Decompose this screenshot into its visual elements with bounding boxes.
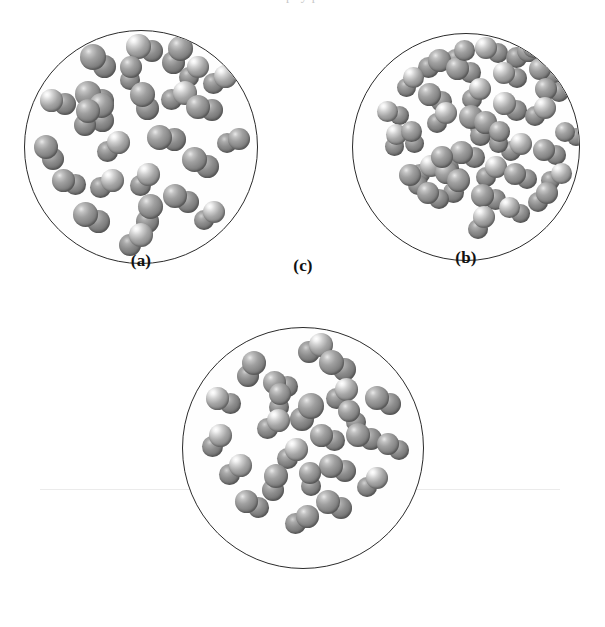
atom-sphere (536, 182, 558, 204)
atom-sphere (346, 423, 370, 447)
atom-sphere (469, 78, 491, 100)
atom-sphere (209, 424, 232, 447)
atom-sphere (377, 433, 399, 455)
atom-sphere (168, 36, 193, 61)
atom-sphere (137, 163, 160, 186)
atom-sphere (365, 386, 389, 410)
atom-sphere (338, 400, 360, 422)
atom-sphere (163, 184, 187, 208)
atom-sphere (80, 44, 106, 70)
atom-sphere (267, 409, 290, 432)
atom-sphere (203, 201, 225, 223)
atom-sphere (76, 99, 100, 123)
vessel-boundary-circle (24, 30, 258, 264)
particles-layer (353, 34, 579, 260)
atom-sphere (182, 147, 207, 172)
atom-sphere (435, 102, 457, 124)
atom-sphere (264, 464, 288, 488)
atom-sphere (417, 182, 439, 204)
atom-sphere (129, 223, 153, 247)
panel-label: (c) (182, 256, 424, 276)
particles-layer (183, 328, 423, 568)
vessel-b (352, 33, 580, 261)
atom-sphere (130, 82, 155, 107)
atom-sphere (473, 206, 495, 228)
atom-sphere (101, 169, 124, 192)
page-bleed-text: p. y p (0, 0, 605, 9)
atom-sphere (316, 490, 340, 514)
figure-root: p. y p (a)(b)(c) (0, 0, 605, 627)
atom-sphere (471, 184, 494, 207)
atom-sphere (34, 135, 58, 159)
atom-sphere (401, 121, 422, 142)
atom-sphere (206, 387, 229, 410)
vessel-boundary-circle (182, 327, 424, 569)
vessel-boundary-circle (352, 33, 580, 261)
vessel-c (182, 327, 424, 569)
atom-sphere (551, 163, 572, 184)
atom-sphere (186, 95, 210, 119)
atom-sphere (298, 393, 324, 419)
vessel-a (24, 30, 258, 264)
atom-sphere (529, 58, 551, 80)
atom-sphere (214, 65, 237, 88)
atom-sphere (269, 383, 291, 405)
atom-sphere (229, 454, 252, 477)
atom-sphere (447, 169, 470, 192)
atom-sphere (138, 194, 163, 219)
atom-sphere (228, 128, 250, 150)
atom-sphere (242, 351, 266, 375)
atom-sphere (366, 467, 388, 489)
atom-sphere (73, 202, 98, 227)
atom-sphere (285, 438, 308, 461)
particles-layer (25, 31, 257, 263)
atom-sphere (533, 139, 555, 161)
atom-sphere (52, 169, 75, 192)
atom-sphere (418, 83, 441, 106)
atom-sphere (510, 133, 532, 155)
atom-sphere (454, 40, 475, 61)
atom-sphere (335, 378, 358, 401)
atom-sphere (489, 121, 510, 142)
atom-sphere (399, 164, 421, 186)
atom-sphere (319, 350, 344, 375)
atom-sphere (107, 131, 130, 154)
atom-sphere (235, 490, 258, 513)
atom-sphere (475, 37, 497, 59)
atom-sphere (534, 97, 556, 119)
atom-sphere (493, 92, 516, 115)
atom-sphere (120, 56, 142, 78)
atom-sphere (296, 505, 319, 528)
